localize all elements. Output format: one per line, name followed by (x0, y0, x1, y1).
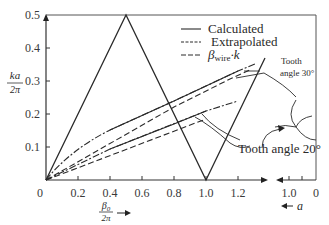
chart-canvas: 0.5 0.4 0.3 0.2 0.1 0 0.2 0.4 0.6 0.8 1.… (0, 0, 329, 225)
svg-text:ka: ka (10, 69, 21, 81)
svg-text:2π: 2π (101, 213, 111, 223)
y-tick-0.3: 0.3 (25, 74, 40, 88)
svg-text:β0: β0 (101, 200, 111, 213)
tooth-30-label-line1: Tooth (281, 56, 302, 66)
x-tick-0.2: 0.2 (71, 186, 86, 200)
y-tick-0.5: 0.5 (25, 8, 40, 22)
a-tick-0: 0 (313, 186, 319, 200)
x-tick-1.2: 1.2 (231, 186, 246, 200)
tooth-30-label-line2: angle 30° (280, 68, 315, 78)
x-tick-1.0: 1.0 (199, 186, 214, 200)
legend-bwire: βwire·k (207, 47, 240, 63)
x-tick-labels: 0 0.2 0.4 0.6 0.8 1.0 1.2 1.0 0 (37, 186, 319, 200)
y-tick-0.2: 0.2 (25, 107, 40, 121)
tooth-20-series (46, 101, 238, 180)
svg-text:2π: 2π (10, 84, 21, 95)
a-tick-1.0: 1.0 (282, 186, 297, 200)
x-tick-0.6: 0.6 (135, 186, 150, 200)
x-tick-0: 0 (37, 186, 43, 200)
legend-extrapolated: Extrapolated (211, 34, 278, 49)
x-tick-0.4: 0.4 (103, 186, 118, 200)
x-tick-0.8: 0.8 (167, 186, 182, 200)
y-axis-label: ka 2π (7, 69, 23, 95)
legend: Calculated Extrapolated βwire·k (181, 21, 278, 63)
x-axis-label: β0 2π (99, 200, 131, 223)
y-tick-0.1: 0.1 (25, 140, 40, 154)
tooth-30-series (46, 64, 255, 180)
y-tick-labels: 0.5 0.4 0.3 0.2 0.1 (25, 8, 40, 154)
x-axis-right-arrow-icon (261, 177, 268, 183)
y-tick-0.4: 0.4 (25, 41, 40, 55)
x-label-arrow-icon (125, 210, 131, 216)
a-axis-label: a (281, 199, 303, 213)
svg-text:a: a (297, 199, 303, 213)
a-axis-left-arrow-icon (276, 177, 283, 183)
tooth-20-label: Tooth angle 20° (238, 141, 321, 156)
